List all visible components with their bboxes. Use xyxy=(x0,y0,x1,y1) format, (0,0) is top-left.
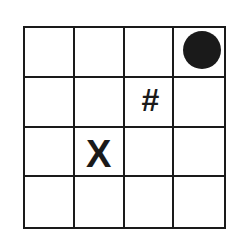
hash-symbol: # xyxy=(141,84,159,116)
cell-r2-c2[interactable] xyxy=(125,128,175,178)
filled-circle-icon xyxy=(183,31,221,69)
cell-r0-c3[interactable] xyxy=(174,28,224,78)
grid-board: # X xyxy=(23,26,226,229)
cell-r1-c3[interactable] xyxy=(174,78,224,128)
cell-r0-c1[interactable] xyxy=(75,28,125,78)
cell-r0-c2[interactable] xyxy=(125,28,175,78)
cell-r3-c3[interactable] xyxy=(174,177,224,227)
cell-r1-c2[interactable]: # xyxy=(125,78,175,128)
cell-r0-c0[interactable] xyxy=(25,28,75,78)
cell-r1-c0[interactable] xyxy=(25,78,75,128)
x-symbol: X xyxy=(86,135,111,173)
cell-r2-c3[interactable] xyxy=(174,128,224,178)
cell-r1-c1[interactable] xyxy=(75,78,125,128)
cell-r3-c2[interactable] xyxy=(125,177,175,227)
cell-r2-c0[interactable] xyxy=(25,128,75,178)
cell-r2-c1[interactable]: X xyxy=(75,128,125,178)
cell-r3-c0[interactable] xyxy=(25,177,75,227)
cell-r3-c1[interactable] xyxy=(75,177,125,227)
